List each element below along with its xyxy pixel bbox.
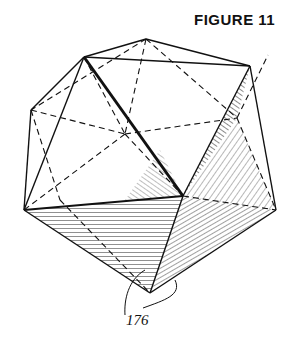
icosahedron-drawing	[0, 0, 294, 355]
shaded-faces	[24, 66, 276, 293]
reference-label: 176	[126, 312, 149, 329]
